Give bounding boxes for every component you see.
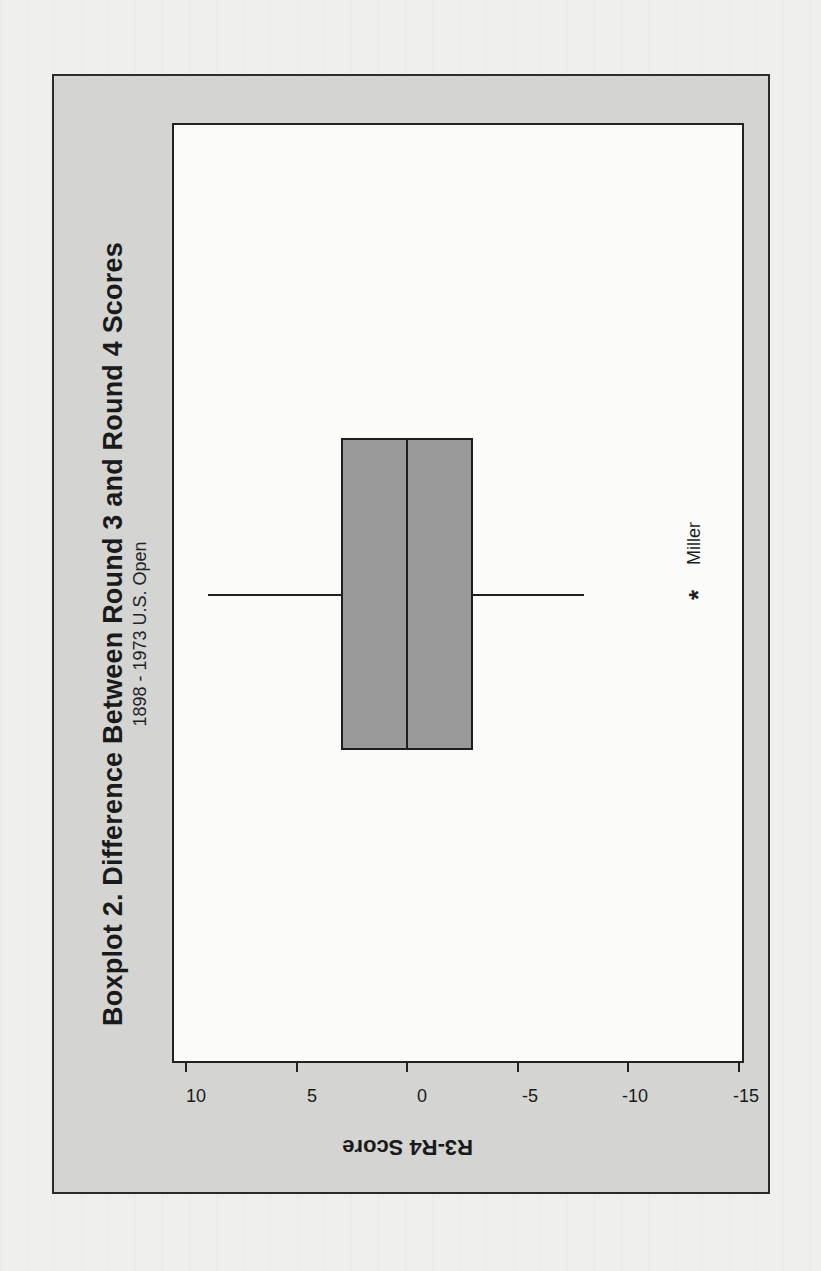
y-tick [517, 1063, 519, 1072]
y-tick [185, 1063, 187, 1072]
outlier-label: Miller [684, 522, 704, 565]
y-axis-label: R3-R4 Score [342, 1134, 473, 1160]
y-tick [627, 1063, 629, 1072]
scanned-page: Boxplot 2. Difference Between Round 3 an… [0, 0, 821, 1271]
chart-subtitle: 1898 - 1973 U.S. Open [130, 76, 151, 1192]
y-tick-label: 5 [277, 1086, 317, 1106]
y-tick-label: -5 [498, 1086, 538, 1106]
outlier-asterisk-icon: * [688, 585, 708, 605]
y-tick-label: -15 [719, 1086, 759, 1106]
median-line [406, 438, 408, 750]
chart-title: Boxplot 2. Difference Between Round 3 an… [98, 76, 129, 1192]
y-tick-label: -10 [608, 1086, 648, 1106]
y-tick [406, 1063, 408, 1072]
y-tick [738, 1063, 740, 1072]
boxplot-figure: Boxplot 2. Difference Between Round 3 an… [52, 74, 770, 1194]
y-tick-label: 10 [166, 1086, 206, 1106]
upper-whisker [208, 594, 341, 596]
y-tick [296, 1063, 298, 1072]
y-tick-label: 0 [387, 1086, 427, 1106]
lower-whisker [473, 594, 584, 596]
